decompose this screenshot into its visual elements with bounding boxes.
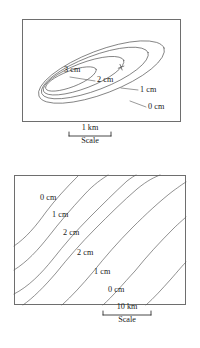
scale-length-10km: 10 km	[103, 303, 151, 312]
contour-map-figure: 3 cm 2 cm 1 cm 0 cm 1 km Scale 0 cm 1 cm…	[0, 0, 200, 348]
scale-length-1km: 1 km	[69, 124, 111, 133]
contour-label-1cm-distal-upper: 1 cm	[52, 211, 69, 219]
contour-label-3cm-top: 3 cm	[64, 66, 81, 74]
scale-caption-bottom: Scale	[103, 316, 151, 325]
contour-label-0cm-distal-upper: 0 cm	[40, 194, 57, 202]
contour-label-2cm-distal-upper: 2 cm	[63, 229, 80, 237]
contour-label-0cm-distal-lower: 0 cm	[108, 286, 125, 294]
contour-label-2cm-top: 2 cm	[97, 76, 114, 84]
contour-label-0cm-top: 0 cm	[148, 103, 165, 111]
contour-label-1cm-top: 1 cm	[140, 86, 157, 94]
contour-label-1cm-distal-lower: 1 cm	[94, 268, 111, 276]
scale-caption-top: Scale	[69, 137, 111, 146]
contour-label-2cm-distal-lower: 2 cm	[77, 249, 94, 257]
